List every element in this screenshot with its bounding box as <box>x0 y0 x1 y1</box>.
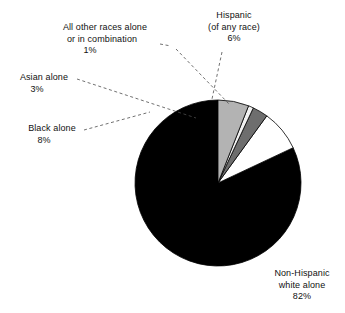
pie-label-non-hispanic-white-alone: Non-Hispanic white alone 82% <box>262 268 342 303</box>
pie-label-asian-alone: Asian alone 3% <box>2 72 86 95</box>
pie-chart-figure: All other races alone or in combination … <box>0 0 345 313</box>
pie-label-hispanic-line1: Hispanic <box>186 10 282 22</box>
pie-label-asian-alone-value: 3% <box>2 84 86 96</box>
leader-line-hispanic <box>212 52 222 99</box>
pie-label-all-other-races-value: 1% <box>38 45 172 57</box>
pie-label-black-alone: Black alone 8% <box>6 123 98 146</box>
pie-label-non-hispanic-white-alone-line2: white alone <box>262 280 342 292</box>
pie-label-black-alone-line1: Black alone <box>6 123 98 135</box>
pie-label-black-alone-value: 8% <box>6 135 98 147</box>
leader-line-asian <box>77 79 196 118</box>
pie-label-non-hispanic-white-alone-value: 82% <box>262 291 342 303</box>
pie-label-non-hispanic-white-alone-line1: Non-Hispanic <box>262 268 342 280</box>
pie-label-hispanic-line2: (of any race) <box>186 22 282 34</box>
pie-label-hispanic-value: 6% <box>186 33 282 45</box>
pie-label-all-other-races-line2: or in combination <box>38 34 172 46</box>
pie-label-all-other-races: All other races alone or in combination … <box>38 22 172 57</box>
pie-label-all-other-races-line1: All other races alone <box>38 22 172 34</box>
pie-label-hispanic: Hispanic (of any race) 6% <box>186 10 282 45</box>
pie-label-asian-alone-line1: Asian alone <box>2 72 86 84</box>
leader-line-other-races-2 <box>176 49 230 105</box>
